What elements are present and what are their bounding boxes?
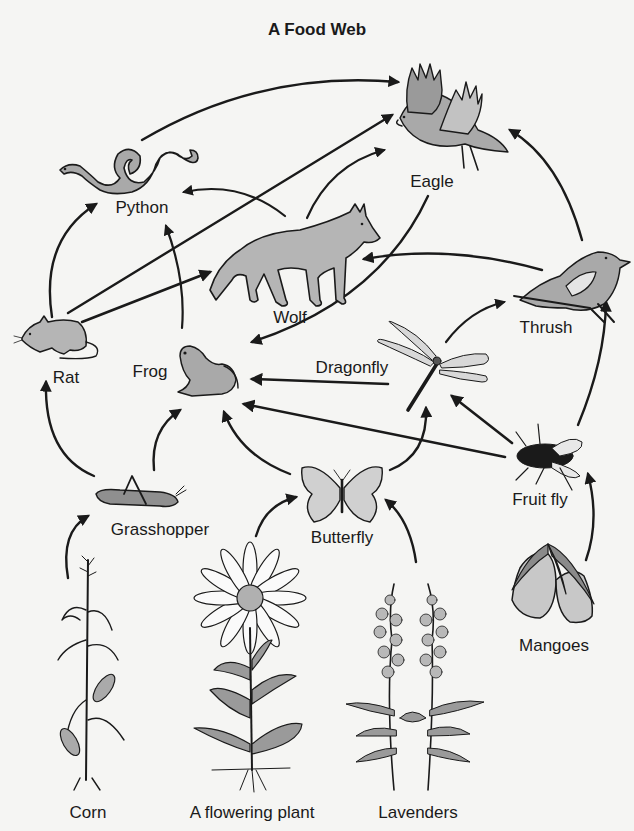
label-eagle: Eagle (410, 172, 453, 192)
label-thrush: Thrush (520, 318, 573, 338)
arrow-mangoes-to-fruitfly (586, 474, 594, 560)
eagle-illustration (397, 64, 508, 170)
label-lavenders: Lavenders (378, 803, 457, 823)
wolf-illustration (210, 204, 380, 306)
arrow-thrush-to-eagle (510, 130, 582, 240)
label-flowering-plant: A flowering plant (190, 803, 315, 823)
dragonfly-illustration (378, 321, 489, 410)
thrush-illustration (514, 252, 630, 322)
arrow-frog-to-python (166, 226, 183, 328)
label-mangoes: Mangoes (519, 636, 589, 656)
arrow-grasshopper-to-rat (46, 382, 94, 476)
butterfly-illustration (302, 467, 383, 522)
arrow-fruitfly-to-frog (244, 404, 505, 457)
arrow-python-to-eagle (142, 80, 398, 140)
flowering-plant-illustration (194, 542, 306, 792)
mangoes-illustration (512, 544, 594, 622)
lavenders-illustration (346, 584, 484, 790)
arrow-grasshopper-to-frog (154, 410, 180, 470)
food-web-diagram: A Food Web (0, 0, 634, 831)
arrow-dragonfly-to-frog (252, 379, 388, 384)
arrow-lavenders-to-butterfly (386, 500, 416, 562)
label-corn: Corn (70, 803, 107, 823)
label-dragonfly: Dragonfly (316, 358, 389, 378)
food-web-artwork (0, 0, 634, 831)
arrow-rat-to-wolf (82, 272, 210, 322)
label-butterfly: Butterfly (311, 528, 373, 548)
arrow-dragonfly-to-thrush (446, 302, 504, 342)
label-frog: Frog (133, 362, 168, 382)
label-python: Python (116, 198, 169, 218)
frog-illustration (178, 346, 238, 396)
arrow-fruitfly-to-dragonfly (452, 396, 512, 443)
fruit-fly-illustration (516, 424, 582, 490)
arrow-flowering-plant-to-butterfly (256, 497, 296, 536)
python-illustration (60, 149, 198, 193)
corn-illustration (56, 556, 124, 790)
label-grasshopper: Grasshopper (111, 520, 209, 540)
grasshopper-illustration (96, 476, 186, 507)
arrow-corn-to-grasshopper (66, 516, 88, 578)
label-rat: Rat (53, 368, 79, 388)
rat-illustration (14, 316, 98, 359)
label-fruit-fly: Fruit fly (512, 490, 568, 510)
label-wolf: Wolf (273, 308, 307, 328)
arrow-butterfly-to-dragonfly (390, 408, 426, 470)
arrow-butterfly-to-frog (224, 412, 290, 474)
